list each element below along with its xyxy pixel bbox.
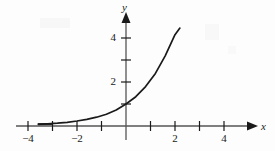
x-tick-label-2: 2: [169, 133, 181, 144]
x-axis-label: x: [261, 121, 266, 132]
y-axis-label: y: [122, 2, 127, 13]
exponential-graph-figure: −4 −2 2 4 2 4 x y: [0, 0, 275, 151]
x-tick-label--2: −2: [67, 133, 87, 144]
x-tick-label--4: −4: [18, 133, 38, 144]
y-axis-arrowhead: [122, 12, 131, 23]
plot-canvas: [0, 0, 275, 151]
x-tick-label-4: 4: [218, 133, 230, 144]
y-tick-label-4: 4: [104, 32, 116, 43]
y-tick-label-2: 2: [104, 76, 116, 87]
x-axis-arrowhead: [247, 122, 258, 131]
curve-tail-ink: [38, 123, 52, 125]
